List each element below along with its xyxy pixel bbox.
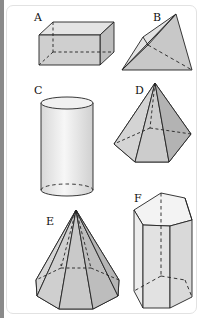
label-a: A [33,11,43,24]
solids-figure: A B C D E [0,0,200,318]
shape-c-cylinder [41,97,93,196]
label-b: B [153,11,161,24]
label-c: C [34,84,42,97]
label-f: F [134,192,142,205]
shape-f-hexagonal-prism [134,193,192,308]
shape-a-rectangular-prism [39,22,114,65]
label-d: D [135,84,144,97]
shape-d-pentagonal-pyramid [114,83,191,162]
label-e: E [46,215,54,228]
